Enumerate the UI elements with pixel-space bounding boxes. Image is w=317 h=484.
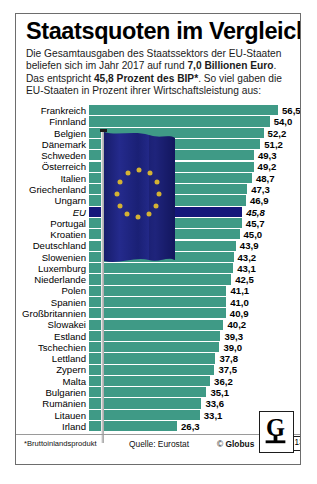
chart-row: Irland26,3 (16, 420, 300, 433)
value-bar (89, 184, 247, 194)
value-bar (89, 308, 226, 318)
bar-chart: Frankreich56,5Finnland54,0Belgien52,2Dän… (16, 104, 300, 433)
value-bar (89, 387, 206, 397)
page-title: Staatsquoten im Vergleich (26, 18, 294, 45)
value-bar (89, 376, 210, 386)
value-bar (89, 353, 215, 363)
value-bar (89, 342, 219, 352)
value-bar (89, 128, 264, 138)
footer-divider (16, 434, 300, 435)
value-bar (89, 274, 231, 284)
value-bar (89, 229, 240, 239)
category-label: Irland (16, 420, 86, 433)
value-bar (89, 162, 254, 172)
value-bar (89, 207, 242, 217)
value-bar (89, 365, 214, 375)
value-bar (89, 116, 270, 126)
value-bar (89, 398, 201, 408)
value-bar (89, 105, 278, 115)
value-bar (89, 320, 223, 330)
value-bar (89, 331, 220, 341)
globus-logo-number: 13010 (293, 436, 301, 451)
globus-logo: G (259, 411, 294, 453)
globus-g-icon: G (260, 412, 291, 450)
value-bar (89, 139, 260, 149)
source-label: Quelle: Eurostat (129, 439, 189, 449)
value-bar (89, 263, 233, 273)
infographic-panel: Staatsquoten im Vergleich Die Gesamtausg… (15, 13, 301, 465)
value-bar (89, 252, 234, 262)
subtitle-text: Die Gesamtausgaben des Staatssektors der… (26, 48, 292, 98)
value-bar (89, 286, 226, 296)
value-bar (89, 218, 242, 228)
copyright-label: © Globus (217, 439, 254, 449)
value-bar (89, 150, 254, 160)
value-label: 26,3 (177, 420, 200, 433)
value-bar (89, 241, 236, 251)
value-bar (89, 195, 246, 205)
value-bar (89, 410, 200, 420)
value-bar (89, 297, 226, 307)
footnote-label: *Bruttoinlandsprodukt (24, 439, 97, 448)
value-bar (89, 421, 177, 431)
value-bar (89, 173, 252, 183)
